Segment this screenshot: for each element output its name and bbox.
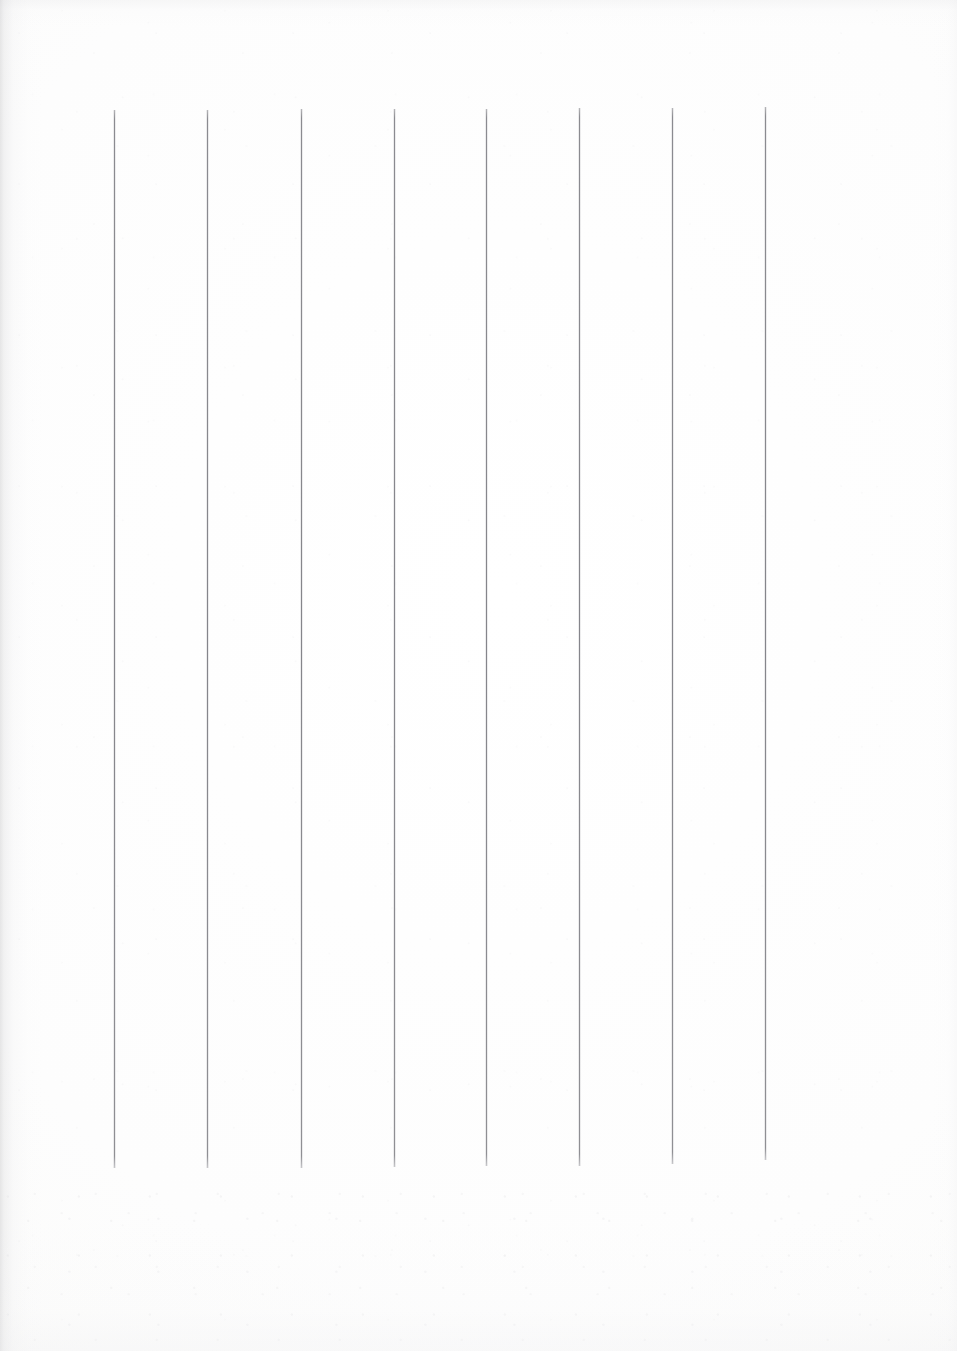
vertical-rule-2 — [207, 110, 208, 1168]
vertical-rule-layer — [0, 0, 957, 1351]
scanned-page — [0, 0, 957, 1351]
vertical-rule-8 — [765, 107, 766, 1160]
vertical-rule-3 — [301, 109, 302, 1168]
vertical-rule-5 — [486, 109, 487, 1166]
vertical-rule-1 — [114, 110, 115, 1168]
vertical-rule-4 — [394, 109, 395, 1167]
vertical-rule-6 — [579, 108, 580, 1166]
vertical-rule-7 — [672, 108, 673, 1164]
